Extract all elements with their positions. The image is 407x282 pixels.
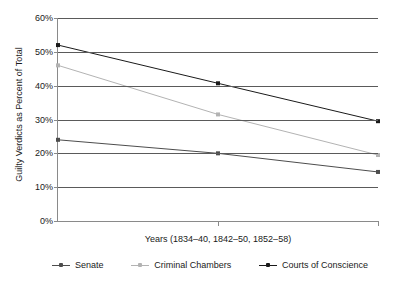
x-axis-title: Years (1834–40, 1842–50, 1852–58) [58, 234, 378, 245]
y-tick-mark [54, 86, 58, 87]
grid-line [58, 120, 378, 121]
y-tick-label: 30% [11, 116, 53, 125]
grid-line [58, 86, 378, 87]
y-tick-label: 50% [11, 48, 53, 57]
data-point-marker [56, 43, 60, 47]
y-tick-mark [54, 52, 58, 53]
chart-legend: SenateCriminal ChambersCourts of Conscie… [30, 258, 390, 272]
legend-marker-icon [52, 261, 70, 270]
legend-label: Courts of Conscience [282, 260, 368, 270]
legend-item-senate[interactable]: Senate [52, 260, 104, 270]
data-point-marker [56, 63, 60, 67]
series-line [58, 140, 378, 172]
legend-item-courts-of-conscience[interactable]: Courts of Conscience [259, 260, 368, 270]
x-tick-mark [218, 221, 219, 226]
plot-area: 0%10%20%30%40%50%60% [58, 18, 378, 221]
y-tick-mark [54, 221, 58, 222]
grid-line [58, 18, 378, 19]
y-tick-mark [54, 120, 58, 121]
grid-line [58, 153, 378, 154]
grid-line [58, 187, 378, 188]
y-tick-mark [54, 187, 58, 188]
y-tick-label: 40% [11, 82, 53, 91]
line-chart: Guilty Verdicts as Percent of Total 0%10… [0, 0, 407, 282]
x-tick-mark [378, 221, 379, 226]
data-point-marker [56, 138, 60, 142]
y-tick-label: 60% [11, 14, 53, 23]
grid-line [58, 52, 378, 53]
data-point-marker [216, 112, 220, 116]
y-tick-mark [54, 153, 58, 154]
y-tick-label: 10% [11, 183, 53, 192]
legend-item-criminal-chambers[interactable]: Criminal Chambers [131, 260, 231, 270]
y-tick-label: 20% [11, 149, 53, 158]
legend-label: Criminal Chambers [154, 260, 231, 270]
legend-label: Senate [75, 260, 104, 270]
y-tick-mark [54, 18, 58, 19]
legend-marker-icon [259, 261, 277, 270]
y-tick-label: 0% [11, 217, 53, 226]
data-point-marker [376, 170, 380, 174]
legend-marker-icon [131, 261, 149, 270]
